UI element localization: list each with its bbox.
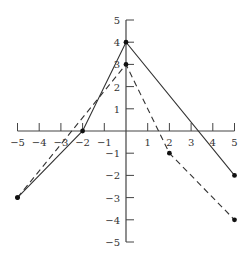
y-tick-label: −2 <box>105 170 120 181</box>
data-point-marker <box>232 217 237 222</box>
x-tick-label: 3 <box>188 137 194 148</box>
y-tick-label: 1 <box>114 104 120 115</box>
data-point-marker <box>167 151 172 156</box>
x-tick-label: −1 <box>97 137 112 148</box>
data-point-marker <box>124 62 129 67</box>
x-tick-label: −2 <box>75 137 90 148</box>
data-point-marker <box>232 173 237 178</box>
axes: −5−4−3−2−11234554321−1−2−3−4−5 <box>10 15 238 248</box>
x-tick-label: −3 <box>54 137 69 148</box>
x-tick-label: −5 <box>10 137 25 148</box>
x-tick-label: −4 <box>32 137 47 148</box>
y-tick-label: −3 <box>105 193 120 204</box>
data-point-marker <box>124 40 129 45</box>
line-chart: −5−4−3−2−11234554321−1−2−3−4−5 <box>0 0 250 260</box>
data-point-marker <box>15 195 20 200</box>
y-tick-label: 5 <box>114 15 120 26</box>
y-tick-label: 4 <box>114 37 120 48</box>
y-tick-label: −1 <box>105 148 120 159</box>
y-tick-label: −4 <box>105 215 120 226</box>
y-tick-label: −5 <box>105 237 120 248</box>
y-tick-label: 2 <box>114 82 120 93</box>
data-point-marker <box>80 129 85 134</box>
x-tick-label: 5 <box>231 137 237 148</box>
x-tick-label: 1 <box>145 137 151 148</box>
x-tick-label: 2 <box>166 137 172 148</box>
